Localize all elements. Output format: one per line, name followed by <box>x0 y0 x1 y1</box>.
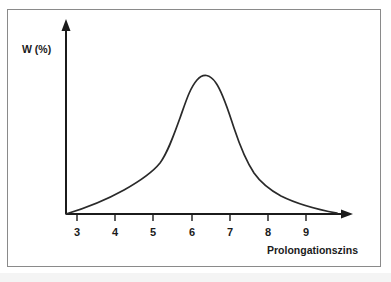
tick-label-3: 3 <box>74 226 80 238</box>
x-axis-arrow-icon <box>341 210 353 219</box>
probability-density-chart: 3 4 5 6 7 8 9 W (%) Prolongationszins <box>0 0 391 282</box>
tick-label-9: 9 <box>303 226 309 238</box>
tick-label-4: 4 <box>112 226 119 238</box>
x-axis-title: Prolongationszins <box>267 244 358 256</box>
density-curve <box>66 75 337 214</box>
figure-root: 3 4 5 6 7 8 9 W (%) Prolongationszins <box>0 0 391 282</box>
tick-label-8: 8 <box>265 226 271 238</box>
tick-label-6: 6 <box>189 226 195 238</box>
y-axis-arrow-icon <box>62 19 71 31</box>
tick-label-7: 7 <box>227 226 233 238</box>
x-axis-tick-labels: 3 4 5 6 7 8 9 <box>74 226 309 238</box>
y-axis-title: W (%) <box>22 43 51 55</box>
x-axis-ticks <box>77 214 306 221</box>
tick-label-5: 5 <box>150 226 156 238</box>
page-edge-artifact <box>0 273 391 282</box>
